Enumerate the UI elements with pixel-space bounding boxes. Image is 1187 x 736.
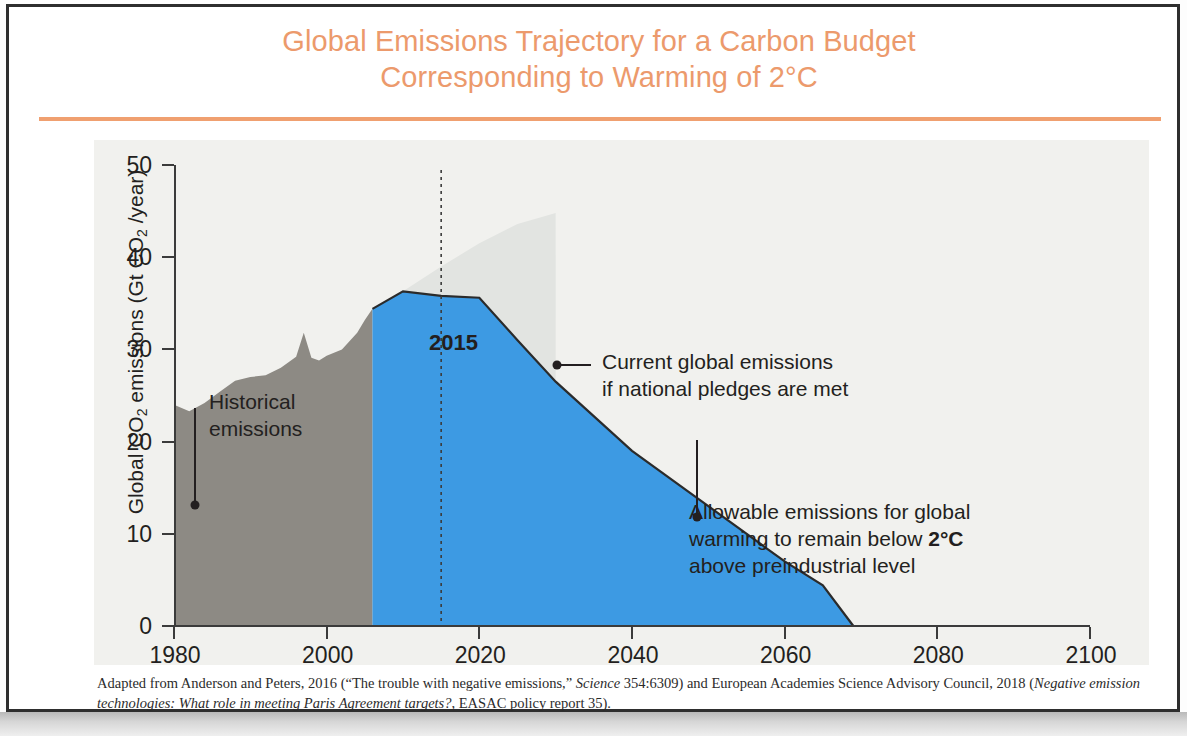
chart-title: Global Emissions Trajectory for a Carbon… [39, 23, 1159, 95]
figure-caption: Adapted from Anderson and Peters, 2016 (… [97, 673, 1162, 713]
caption-part-3: , EASAC policy report 35). [452, 695, 611, 711]
annotation-allowable-emissions: Allowable emissions for global warming t… [689, 498, 1019, 579]
allowable-text-post: above preindustrial level [689, 554, 915, 577]
annotation-historical-emissions: Historical emissions [209, 388, 389, 442]
page-root: Global Emissions Trajectory for a Carbon… [0, 0, 1187, 736]
historical-leader-dot [191, 501, 200, 510]
pledges-leader-dot [553, 361, 562, 370]
title-divider-rule [39, 117, 1161, 121]
page-frame: Global Emissions Trajectory for a Carbon… [6, 4, 1180, 712]
caption-part-2: 354:6309) and European Academies Science… [620, 675, 1034, 691]
chart-title-line-2: Corresponding to Warming of 2°C [39, 59, 1159, 95]
annotation-current-pledges: Current global emissions if national ple… [602, 348, 932, 402]
caption-italic-science: Science [576, 675, 620, 691]
plot-area: 01020304050 1980200020202040206020802100… [94, 140, 1149, 665]
caption-part-1: Adapted from Anderson and Peters, 2016 (… [97, 675, 576, 691]
chart-panel: 01020304050 1980200020202040206020802100… [94, 140, 1149, 665]
allowable-text-bold: 2°C [928, 527, 963, 550]
chart-title-line-1: Global Emissions Trajectory for a Carbon… [39, 23, 1159, 59]
page-shadow [0, 712, 1187, 736]
